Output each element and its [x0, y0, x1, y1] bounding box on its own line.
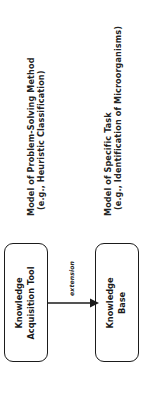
node-kat-line-2: Acquisition Tool	[26, 266, 38, 339]
node-kat-line-1: Knowledge	[14, 266, 26, 339]
annotation-psm-line-1: Model of Problem-Solving Method	[26, 57, 36, 216]
annotation-task-line-1: Model of Specific Task	[103, 26, 113, 216]
node-kb-line-2: Base	[117, 277, 129, 328]
annotation-psm-line-2: (e.g., Heuristic Classification)	[36, 57, 46, 216]
node-kb-line-1: Knowledge	[105, 277, 117, 328]
annotation-task-line-2: (e.g., Identification of Microorganisms)	[113, 26, 123, 216]
annotation-problem-solving-method: Model of Problem-Solving Method (e.g., H…	[26, 57, 47, 216]
node-knowledge-acquisition-tool[interactable]: Knowledge Acquisition Tool	[4, 243, 48, 362]
node-knowledge-base[interactable]: Knowledge Base	[95, 243, 139, 362]
annotation-specific-task: Model of Specific Task (e.g., Identifica…	[103, 26, 124, 216]
node-knowledge-acquisition-tool-label: Knowledge Acquisition Tool	[14, 266, 38, 339]
diagram-canvas: Model of Problem-Solving Method (e.g., H…	[0, 0, 159, 394]
edge-extension-label: extension	[68, 261, 75, 296]
node-knowledge-base-label: Knowledge Base	[105, 277, 129, 328]
